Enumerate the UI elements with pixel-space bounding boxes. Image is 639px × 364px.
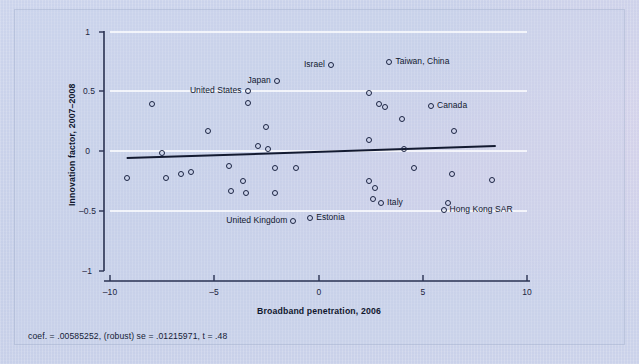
data-point [489,177,495,183]
data-point [370,196,376,202]
data-point [205,128,211,134]
data-point [411,165,417,171]
data-point-estonia [307,215,313,221]
data-point [372,185,378,191]
data-point-hong-kong-sar [441,207,447,213]
data-point [265,146,271,152]
data-point [149,101,155,107]
data-point [159,150,165,156]
point-label-taiwan-china: Taiwan, China [395,56,449,66]
data-point [451,128,457,134]
data-point [228,188,234,194]
data-point-canada [428,103,434,109]
data-point [366,90,372,96]
scatter-plot-figure: 1 0.5 0 –0.5 –1 –10 –5 0 5 10 Broadband … [0,0,639,364]
point-label-italy: Italy [387,197,403,207]
data-point [163,175,169,181]
point-label-estonia: Estonia [316,212,345,222]
data-point [124,175,130,181]
data-point [449,171,455,177]
data-point [188,169,194,175]
data-point [240,178,246,184]
data-point [226,163,232,169]
data-point-japan [274,78,280,84]
data-point [263,124,269,130]
data-point [376,101,382,107]
data-point-united-kingdom [290,218,296,224]
data-point [382,104,388,110]
data-point [401,146,407,152]
data-point [366,178,372,184]
data-point [178,171,184,177]
data-point [366,137,372,143]
data-point [272,190,278,196]
data-point-taiwan-china [386,59,392,65]
data-point [272,165,278,171]
data-point-italy [378,200,384,206]
point-label-japan: Japan [247,75,270,85]
data-point [255,143,261,149]
data-points-layer: United StatesJapanUnited KingdomEstoniaI… [0,0,639,364]
data-point [243,190,249,196]
point-label-united-states: United States [190,85,242,95]
point-label-united-kingdom: United Kingdom [226,215,287,225]
point-label-canada: Canada [437,100,467,110]
data-point-israel [328,62,334,68]
data-point [293,165,299,171]
data-point [245,100,251,106]
point-label-hong-kong-sar: Hong Kong SAR [450,204,513,214]
data-point [399,116,405,122]
data-point-united-states [245,88,251,94]
point-label-israel: Israel [304,59,325,69]
